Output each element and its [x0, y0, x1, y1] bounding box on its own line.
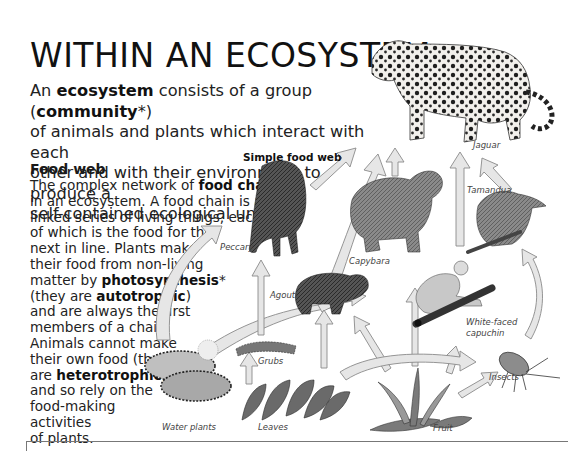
- arrow-to-jaguar-center: [450, 152, 470, 246]
- arrow-fruit-to-agouti: [315, 310, 333, 368]
- capybara-illustration: [351, 171, 443, 252]
- arrow-capybara-to-jaguar: [386, 148, 404, 176]
- diagram-title: Simple food web: [243, 151, 342, 163]
- label-fruit: Fruit: [433, 423, 452, 433]
- label-leaves: Leaves: [258, 422, 288, 432]
- insect-illustration: [495, 347, 560, 392]
- label-grubs: Grubs: [258, 356, 283, 366]
- peccary-illustration: [249, 161, 306, 256]
- arrow-waterplants-to-peccary: [156, 226, 222, 340]
- arrow-insects-to-tamandua: [522, 249, 543, 339]
- label-peccary: Peccary: [220, 242, 253, 252]
- arrow-leaves-to-grubs: [240, 352, 258, 384]
- label-jaguar: Jaguar: [473, 140, 500, 150]
- label-capuchin-line1: White-faced: [466, 317, 517, 327]
- label-tamandua: Tamandua: [467, 185, 511, 195]
- label-capybara: Capybara: [349, 256, 390, 266]
- label-capuchin-line2: capuchin: [466, 328, 504, 338]
- fruit-plant-illustration: [370, 368, 472, 431]
- agouti-illustration: [295, 273, 368, 314]
- label-water-plants: Water plants: [162, 422, 216, 432]
- jaguar-illustration: [372, 41, 552, 142]
- bottom-rule-tick: [26, 441, 27, 451]
- bottom-rule: [26, 441, 568, 442]
- food-web-illustration: [0, 0, 568, 451]
- label-agouti: Agouti: [270, 290, 298, 300]
- tamandua-illustration: [468, 191, 546, 252]
- leaves-illustration: [242, 380, 350, 420]
- grubs-illustration: [236, 342, 296, 356]
- label-insects: Insects: [489, 372, 519, 382]
